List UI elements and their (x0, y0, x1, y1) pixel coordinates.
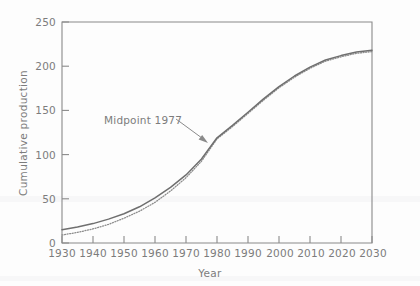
x-tick-label-2010: 2010 (297, 247, 325, 259)
series-cumulative-production-dotted (62, 52, 372, 235)
y-tick-label-150: 150 (35, 104, 56, 116)
x-tick-label-1940: 1940 (79, 247, 107, 259)
x-tick-label-1980: 1980 (203, 247, 231, 259)
chart-figure: 0 50 100 150 200 250 1930 1940 1950 1 (0, 0, 420, 286)
x-tick-label-2020: 2020 (328, 247, 356, 259)
y-axis-tick-labels: 0 50 100 150 200 250 (35, 16, 56, 249)
plot-frame (62, 22, 372, 243)
annotation-midpoint-label: Midpoint 1977 (104, 114, 182, 126)
x-tick-label-1990: 1990 (234, 247, 262, 259)
x-tick-label-1960: 1960 (141, 247, 169, 259)
x-tick-label-2030: 2030 (359, 247, 387, 259)
y-axis-ticks (62, 22, 69, 243)
y-axis-title: Cumulative production (17, 70, 29, 196)
x-tick-label-1930: 1930 (48, 247, 76, 259)
x-axis-tick-labels: 1930 1940 1950 1960 1970 1980 1990 2000 … (48, 247, 387, 259)
chart-canvas: 0 50 100 150 200 250 1930 1940 1950 1 (0, 0, 420, 286)
y-tick-label-250: 250 (35, 16, 56, 28)
x-axis-title: Year (197, 267, 222, 279)
y-tick-label-200: 200 (35, 60, 56, 72)
x-axis-ticks (62, 236, 372, 243)
y-tick-label-100: 100 (35, 149, 56, 161)
x-tick-label-1950: 1950 (110, 247, 138, 259)
x-tick-label-2000: 2000 (266, 247, 294, 259)
y-tick-label-50: 50 (42, 193, 56, 205)
x-tick-label-1970: 1970 (172, 247, 200, 259)
